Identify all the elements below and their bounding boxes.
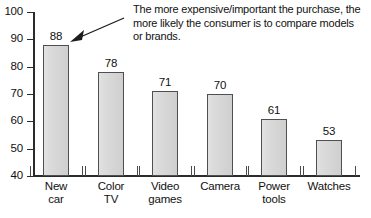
annotation-line-2: more likely the consumer is to compare m… <box>133 17 369 31</box>
bar-value-label: 78 <box>89 58 133 70</box>
bar-value-label: 61 <box>252 105 296 117</box>
y-axis-tick <box>27 176 34 177</box>
bar-value-label: 70 <box>198 80 242 92</box>
y-axis-tick-label: 100 <box>0 6 23 18</box>
x-axis-tick <box>300 166 301 176</box>
x-axis-category-label: Video games <box>139 180 191 206</box>
y-axis-tick-label: 80 <box>0 61 23 73</box>
x-axis-tick <box>303 166 304 176</box>
y-axis-tick-label: 90 <box>0 33 23 45</box>
annotation-arrow-icon <box>62 14 132 48</box>
x-axis-tick <box>139 166 140 176</box>
bar-value-label: 71 <box>143 77 187 89</box>
y-axis-tick <box>27 94 34 95</box>
x-axis-tick <box>248 166 249 176</box>
x-axis-category-label: Color TV <box>85 180 137 206</box>
y-axis-tick <box>27 39 34 40</box>
x-axis-tick <box>30 166 31 176</box>
x-axis-tick <box>85 166 86 176</box>
annotation-callout: The more expensive/important the purchas… <box>133 3 369 44</box>
y-axis-tick-label: 40 <box>0 170 23 182</box>
annotation-line-1: The more expensive/important the purchas… <box>133 3 369 17</box>
y-axis-tick <box>27 149 34 150</box>
x-axis-tick <box>82 166 83 176</box>
y-axis-tick <box>27 67 34 68</box>
bar <box>316 140 342 176</box>
x-axis-tick <box>194 166 195 176</box>
x-axis-category-label: Power tools <box>248 180 300 206</box>
y-axis-tick-label: 60 <box>0 115 23 127</box>
annotation-line-3: or brands. <box>133 30 369 44</box>
bar <box>43 45 69 176</box>
bar-value-label: 53 <box>307 126 351 138</box>
bar-chart: 405060708090100 88New car78Color TV71Vid… <box>0 0 371 218</box>
x-axis-tick <box>137 166 138 176</box>
bar <box>261 119 287 176</box>
x-axis-category-label: New car <box>30 180 82 206</box>
y-axis-tick-label: 70 <box>0 88 23 100</box>
x-axis-tick <box>246 166 247 176</box>
bar <box>152 91 178 176</box>
bar <box>207 94 233 176</box>
y-axis-tick-label: 50 <box>0 143 23 155</box>
x-axis-tick <box>191 166 192 176</box>
y-axis-tick <box>27 121 34 122</box>
x-axis-category-label: Watches <box>303 180 355 193</box>
bar <box>98 72 124 176</box>
y-axis-tick <box>27 12 34 13</box>
x-axis-category-label: Camera <box>194 180 246 193</box>
x-axis-tick <box>355 166 356 176</box>
